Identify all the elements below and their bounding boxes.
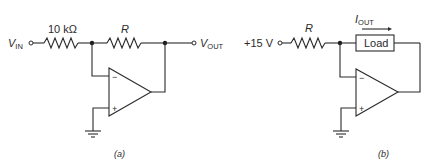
ground-icon [85, 131, 101, 137]
inverting-sign-b: − [359, 73, 364, 83]
vout-label: VOUT [200, 37, 224, 51]
circuit-b: +15 V R Load IOUT − + (b [244, 13, 420, 159]
caption-b: (b) [378, 149, 389, 159]
circuit-diagram: VIN 10 kΩ R VOUT − + [0, 0, 431, 165]
vout-terminal [192, 41, 196, 45]
vin-label: VIN [8, 37, 23, 51]
input-resistor [44, 38, 78, 48]
circuit-a: VIN 10 kΩ R VOUT − + [8, 23, 224, 159]
source-label: +15 V [244, 37, 274, 49]
feedback-resistor-label: R [121, 23, 129, 35]
input-resistor-label: 10 kΩ [48, 23, 77, 35]
source-terminal [278, 41, 282, 45]
load-label: Load [364, 37, 388, 49]
current-arrow-icon [362, 27, 392, 31]
source-resistor-label: R [305, 22, 313, 34]
caption-a: (a) [114, 149, 125, 159]
ground-icon [333, 131, 349, 137]
source-resistor [291, 38, 325, 48]
noninverting-sign-b: + [359, 104, 364, 114]
noninverting-sign: + [112, 104, 117, 114]
inverting-sign: − [112, 72, 117, 82]
feedback-resistor [107, 38, 141, 48]
vin-terminal [29, 41, 33, 45]
iout-label: IOUT [355, 13, 374, 27]
